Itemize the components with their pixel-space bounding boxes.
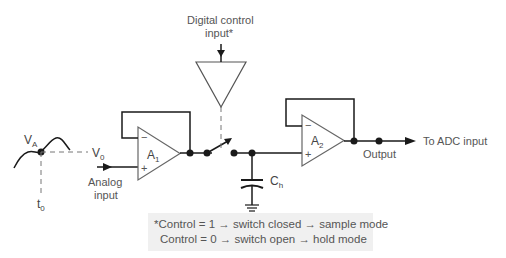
a1-minus: − — [141, 131, 147, 143]
output-label: Output — [363, 148, 396, 160]
hold-capacitor — [241, 153, 263, 211]
analog-input-label: Analog — [88, 176, 122, 188]
control-input-label-2: input* — [205, 27, 234, 39]
to-adc-label: To ADC input — [423, 135, 487, 147]
control-input-label: Digital control — [187, 14, 254, 26]
a2-minus: − — [305, 119, 311, 131]
note-line-2: Control = 0 → switch open → hold mode — [160, 233, 367, 245]
va-label: VA — [24, 133, 38, 149]
t0-label: t0 — [37, 197, 45, 213]
opamp-a1 — [122, 112, 212, 180]
analog-input-label-2: input — [94, 189, 118, 201]
control-buffer — [196, 44, 246, 107]
a1-plus: + — [141, 162, 147, 174]
input-arrow-icon — [103, 163, 112, 171]
control-note: *Control = 1 → switch closed → sample mo… — [148, 213, 373, 251]
output-arrow-icon — [405, 137, 416, 145]
note-line-1: *Control = 1 → switch closed → sample mo… — [154, 218, 388, 230]
a2-plus: + — [305, 148, 311, 160]
control-arrow-icon — [217, 50, 225, 57]
v0-label: V0 — [92, 146, 105, 162]
ch-label: Ch — [270, 174, 283, 190]
